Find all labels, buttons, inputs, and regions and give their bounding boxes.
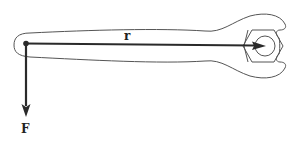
r-vector-shaft — [26, 44, 254, 46]
r-arrowhead-icon — [252, 42, 266, 51]
pivot-point-dot — [23, 41, 29, 47]
r-label: r — [124, 29, 131, 43]
r-vector — [26, 42, 266, 51]
f-vector — [22, 44, 31, 118]
f-label: F — [21, 122, 30, 136]
wrench-torque-diagram: r F — [0, 0, 291, 144]
